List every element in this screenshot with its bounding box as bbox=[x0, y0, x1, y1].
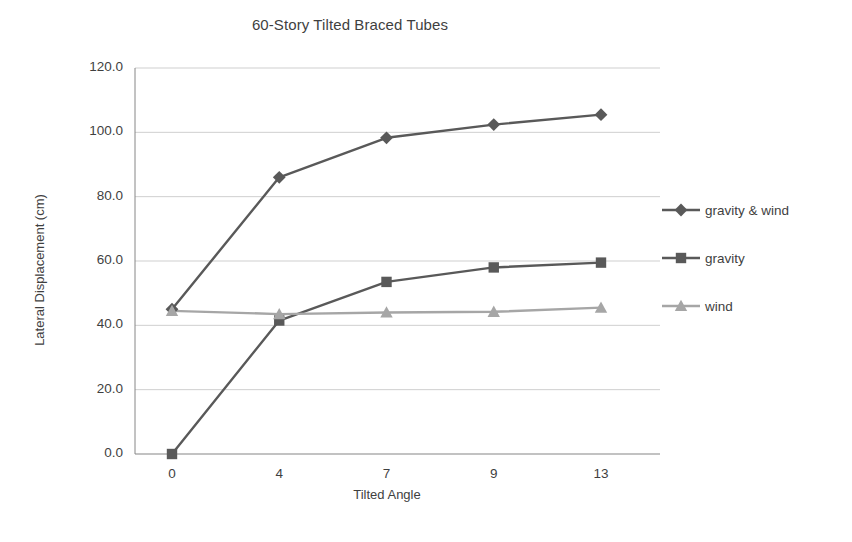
series-line-1 bbox=[172, 263, 601, 454]
legend-item-2[interactable]: wind bbox=[660, 286, 850, 326]
x-tick-label: 13 bbox=[571, 466, 631, 481]
legend-marker bbox=[676, 253, 686, 263]
x-tick-label: 4 bbox=[249, 466, 309, 481]
x-tick-label: 9 bbox=[464, 466, 524, 481]
y-tick-label: 0.0 bbox=[53, 445, 123, 460]
legend-item-0[interactable]: gravity & wind bbox=[660, 190, 850, 230]
data-point-0-2 bbox=[380, 131, 393, 144]
x-tick-label: 7 bbox=[357, 466, 417, 481]
data-point-0-4 bbox=[595, 108, 608, 121]
y-tick-label: 120.0 bbox=[53, 59, 123, 74]
y-tick-label: 20.0 bbox=[53, 381, 123, 396]
chart-container: 60-Story Tilted Braced Tubes Lateral Dis… bbox=[0, 0, 852, 542]
chart-legend: gravity & windgravitywind bbox=[660, 190, 850, 334]
data-point-1-4 bbox=[596, 257, 606, 267]
y-tick-label: 100.0 bbox=[53, 123, 123, 138]
y-tick-label: 40.0 bbox=[53, 316, 123, 331]
legend-label: gravity bbox=[702, 251, 745, 266]
data-point-0-3 bbox=[487, 118, 500, 131]
series-markers bbox=[166, 108, 608, 459]
legend-marker-diamond-icon bbox=[660, 201, 702, 219]
y-tick-label: 60.0 bbox=[53, 252, 123, 267]
legend-label: gravity & wind bbox=[702, 203, 789, 218]
data-point-1-3 bbox=[489, 262, 499, 272]
legend-marker-square-icon bbox=[660, 249, 702, 267]
data-point-1-0 bbox=[167, 449, 177, 459]
data-point-1-2 bbox=[381, 277, 391, 287]
legend-item-1[interactable]: gravity bbox=[660, 238, 850, 278]
legend-marker bbox=[675, 204, 688, 217]
y-tick-label: 80.0 bbox=[53, 188, 123, 203]
legend-label: wind bbox=[702, 299, 733, 314]
x-tick-label: 0 bbox=[142, 466, 202, 481]
legend-marker-triangle-icon bbox=[660, 297, 702, 315]
